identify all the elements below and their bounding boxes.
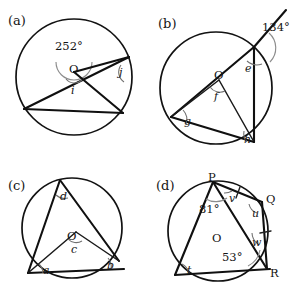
angle-53-arc xyxy=(248,250,260,266)
panel-d: (d) P Q R 81° v u O w 53° t xyxy=(148,170,296,288)
chord-c-2 xyxy=(60,180,119,261)
panel-b-angle-e: e xyxy=(245,62,252,75)
panel-c-angle-a: a xyxy=(43,264,50,277)
panel-d-angle-t: t xyxy=(187,264,192,277)
panel-a-angle-i: i xyxy=(71,84,75,97)
circle-b xyxy=(160,32,272,144)
figure-sheet: (a) 252° O i j xyxy=(0,0,296,288)
panel-c-angle-d: d xyxy=(60,190,67,203)
equal-mark-qr xyxy=(260,231,271,233)
panel-b-tag: (b) xyxy=(158,16,176,31)
panel-d-angle-53: 53° xyxy=(222,250,242,264)
panel-a-angle-252: 252° xyxy=(55,39,83,53)
radius-a-2 xyxy=(74,72,123,113)
panel-a-center-label: O xyxy=(69,62,78,76)
chord-ps xyxy=(175,182,213,275)
panel-d-vertex-p: P xyxy=(208,170,216,184)
panel-d-center-label: O xyxy=(212,231,221,245)
panel-c-angle-c: c xyxy=(71,243,77,256)
panel-c-center-label: O xyxy=(67,229,76,243)
panel-c: (c) d O c a b xyxy=(0,170,148,288)
panel-d-angle-u: u xyxy=(252,207,259,220)
panel-d-angle-w: w xyxy=(252,236,262,249)
panel-b-angle-134: 134° xyxy=(262,20,290,34)
panel-d-vertex-r: R xyxy=(270,266,279,280)
panel-b: (b) 134° e O f g h xyxy=(148,0,296,170)
circle-a xyxy=(16,19,132,135)
panel-d-tag: (d) xyxy=(156,178,174,193)
panel-c-angle-b: b xyxy=(107,259,114,272)
angle-134-arc xyxy=(269,33,276,62)
chord-a-2 xyxy=(24,109,123,113)
panel-a: (a) 252° O i j xyxy=(0,0,148,170)
panel-b-center-label: O xyxy=(214,68,223,82)
panel-d-vertex-q: Q xyxy=(266,192,275,206)
radius-c-2 xyxy=(76,232,119,261)
panel-a-angle-j: j xyxy=(116,66,123,79)
panel-d-angle-v: v xyxy=(229,192,236,205)
panel-d-angle-81: 81° xyxy=(199,202,219,216)
panel-a-tag: (a) xyxy=(8,13,26,28)
panel-c-tag: (c) xyxy=(8,178,25,193)
panel-b-angle-h: h xyxy=(244,133,251,146)
radius-b-1 xyxy=(171,80,219,117)
panel-b-angle-g: g xyxy=(184,115,191,128)
